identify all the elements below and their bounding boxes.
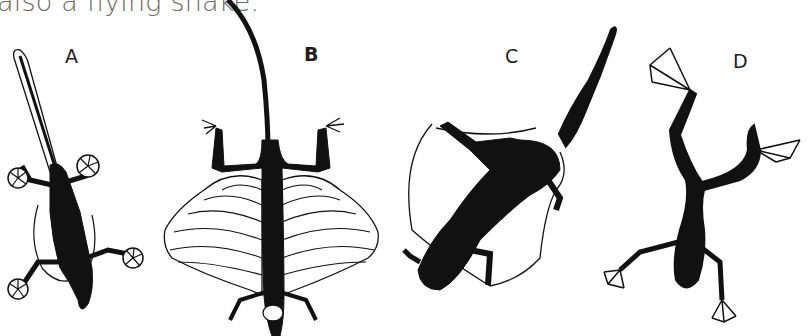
flying-dragon-lizard-icon — [164, 0, 378, 336]
gliding-gecko-icon — [8, 50, 143, 309]
gliding-mammal-icon — [404, 28, 615, 290]
flying-frog-icon — [604, 48, 800, 322]
